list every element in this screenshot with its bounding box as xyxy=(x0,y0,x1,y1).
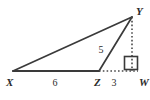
vertex-label-x: X xyxy=(5,76,14,88)
vertex-label-z: Z xyxy=(93,76,101,88)
measure-label-zw: 3 xyxy=(112,77,117,88)
vertex-label-y: Y xyxy=(136,5,144,17)
vertex-label-w: W xyxy=(139,76,150,88)
figure-canvas: X Z W Y 6 3 5 xyxy=(0,0,150,100)
geometry-diagram: X Z W Y 6 3 5 xyxy=(0,0,150,100)
measure-label-zy: 5 xyxy=(99,44,104,55)
segment-xy xyxy=(13,17,132,71)
right-angle-marker xyxy=(125,57,138,70)
measure-label-xz: 6 xyxy=(53,77,58,88)
